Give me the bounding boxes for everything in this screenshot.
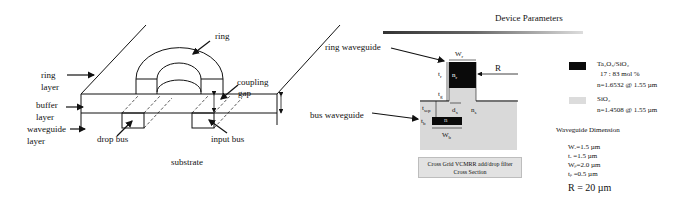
ring-layer-label-2: layer <box>41 82 59 92</box>
dimension-title: Waveguide Dimension <box>556 126 620 135</box>
tb-label: tb <box>421 117 425 128</box>
bus-waveguide-label: bus waveguide <box>310 110 364 120</box>
dimension-wr: Wᵣ=1.5 µm <box>568 143 600 152</box>
legend-cladding-index: n=1.4508 @ 1.55 µm <box>597 106 657 115</box>
caption-line-2: Cross Section <box>419 168 521 176</box>
parameters-title: Device Parameters <box>495 13 563 23</box>
dx-label: dx <box>452 106 458 117</box>
legend-swatch-core <box>569 62 586 70</box>
dimension-tb: tᵦ =0.5 µm <box>568 170 598 179</box>
ring-layer-label-1: ring <box>41 70 56 80</box>
dimension-tr: tᵣ =1.5 µm <box>568 152 597 161</box>
cross-section-caption: Cross Grid VCMRR add/drop filter Cross S… <box>418 157 522 178</box>
tg-label: tg <box>438 90 442 101</box>
legend-core-composition: 17 : 83 mol % <box>600 70 640 79</box>
legend-cladding-material: SiO₂ <box>597 95 610 104</box>
legend-core-index: n=1.6532 @ 1.55 µm <box>597 81 657 90</box>
ring-label: ring <box>215 31 230 41</box>
title-divider <box>383 31 583 34</box>
caption-line-1: Cross Grid VCMRR add/drop filter <box>419 160 521 168</box>
radius-value: R = 20 µm <box>568 183 611 193</box>
waveguide-layer-label-2: layer <box>27 136 45 146</box>
buffer-layer-label-1: buffer <box>36 100 58 110</box>
hidden-bus-lines <box>122 96 242 128</box>
tr-label: tr <box>438 70 442 81</box>
n-label: n <box>444 116 448 125</box>
nr-label: nr <box>452 71 457 82</box>
substrate-label: substrate <box>171 157 203 167</box>
buffer-layer-label-2: layer <box>36 112 54 122</box>
dimension-wb: Wᵦ=2.0 µm <box>568 161 601 170</box>
wb-label: Wb <box>442 131 451 142</box>
coupling-gap-label-1: coupling <box>237 77 269 87</box>
ring-waveguide-label: ring waveguide <box>325 42 381 52</box>
r-label: R <box>495 63 501 73</box>
layer-stack <box>81 25 340 130</box>
legend-swatch-cladding <box>569 97 586 104</box>
wr-label: Wr <box>455 50 463 61</box>
waveguide-layer-label-1: waveguide <box>27 124 66 134</box>
ns-label: ns <box>471 106 476 117</box>
tsep-label: tsep <box>422 104 431 115</box>
input-bus-label: input bus <box>211 134 244 144</box>
coupling-gap-label-2: gap <box>238 88 251 98</box>
legend-core-material: Ta₂O₅/SiO₂ <box>597 60 629 69</box>
drop-bus-label: drop bus <box>97 134 128 144</box>
